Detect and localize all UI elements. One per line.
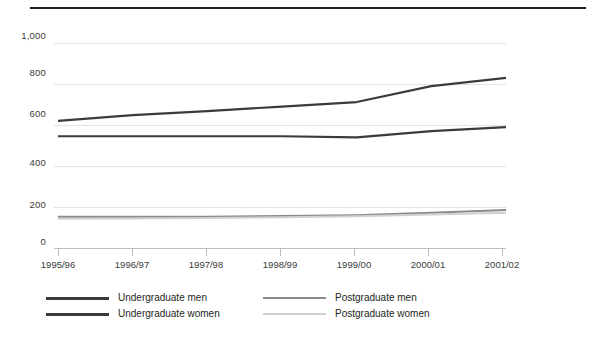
x-tick-label-3: 1998/99 xyxy=(263,259,297,270)
x-tickmark-5 xyxy=(428,249,429,256)
legend-swatch-undergraduate-men xyxy=(46,297,109,300)
x-tickmark-3 xyxy=(280,249,281,256)
x-tick-label-4: 1999/00 xyxy=(337,259,371,270)
series-line-undergraduate-men xyxy=(58,78,506,121)
x-tickmark-6 xyxy=(502,249,503,256)
x-tick-label-0: 1995/96 xyxy=(41,259,75,270)
y-tick-label-0: 0 xyxy=(41,236,46,247)
x-tickmark-0 xyxy=(58,249,59,256)
y-tick-label-600: 600 xyxy=(30,108,46,119)
legend-item-undergraduate-women: Undergraduate women xyxy=(46,309,220,319)
x-tick-label-2: 1997/98 xyxy=(189,259,223,270)
legend-swatch-postgraduate-women xyxy=(263,313,326,315)
legend-label-undergraduate-women: Undergraduate women xyxy=(118,309,220,319)
legend-swatch-undergraduate-women xyxy=(46,313,109,316)
legend-item-postgraduate-women: Postgraduate women xyxy=(263,309,430,319)
x-tick-label-6: 2001/02 xyxy=(485,259,519,270)
y-tick-label-800: 800 xyxy=(30,67,46,78)
y-tick-label-1000: 1,000 xyxy=(21,30,46,41)
chart-legend: Undergraduate men Undergraduate women Po… xyxy=(0,293,598,333)
x-tickmark-2 xyxy=(206,249,207,256)
legend-item-undergraduate-men: Undergraduate men xyxy=(46,293,207,303)
x-tick-label-1: 1996/97 xyxy=(115,259,149,270)
y-tick-label-200: 200 xyxy=(30,199,46,210)
legend-item-postgraduate-men: Postgraduate men xyxy=(263,293,417,303)
legend-label-postgraduate-men: Postgraduate men xyxy=(335,293,417,303)
legend-label-undergraduate-men: Undergraduate men xyxy=(118,293,207,303)
series-line-undergraduate-women xyxy=(58,127,506,137)
chart-figure: Thousands 1,000 800 600 400 200 0 1995/9… xyxy=(0,0,598,339)
legend-swatch-postgraduate-men xyxy=(263,297,326,299)
x-tickmark-4 xyxy=(354,249,355,256)
series-canvas xyxy=(54,43,506,248)
y-axis-tick-labels: 1,000 800 600 400 200 0 xyxy=(0,0,52,339)
y-tick-label-400: 400 xyxy=(30,157,46,168)
legend-label-postgraduate-women: Postgraduate women xyxy=(335,309,430,319)
top-divider-rule xyxy=(30,7,586,9)
x-tick-label-5: 2000/01 xyxy=(411,259,445,270)
x-tickmark-1 xyxy=(132,249,133,256)
